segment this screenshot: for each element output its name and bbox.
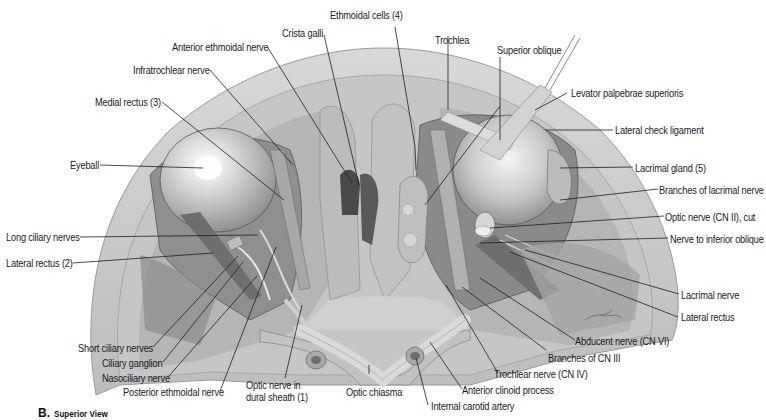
label-ethmoidal-cells: Ethmoidal cells (4)	[330, 9, 403, 21]
label-long-ciliary-nerves: Long ciliary nerves	[6, 231, 80, 243]
label-crista-galli: Crista galli	[282, 27, 323, 39]
label-optic-nerve-cut: Optic nerve (CN II), cut	[665, 211, 755, 223]
label-lacrimal-nerve: Lacrimal nerve	[681, 289, 739, 301]
label-anterior-ethmoidal-nerve: Anterior ethmoidal nerve	[172, 41, 268, 53]
label-optic-nerve-dural-line2: dural sheath (1)	[246, 391, 308, 403]
label-internal-carotid-artery: Internal carotid artery	[431, 400, 514, 412]
label-lateral-rectus-2: Lateral rectus (2)	[6, 257, 73, 269]
label-infratrochlear-nerve: Infratrochlear nerve	[133, 64, 210, 76]
figure-caption: B. Superior View	[38, 403, 118, 420]
label-anterior-clinoid-process: Anterior clinoid process	[462, 384, 554, 396]
label-nerve-to-inferior-oblique: Nerve to inferior oblique	[670, 233, 764, 245]
label-trochlea: Trochlea	[435, 34, 469, 46]
label-optic-nerve-dural-line1: Optic nerve in	[246, 379, 308, 391]
label-levator-palpebrae-superioris: Levator palpebrae superioris	[571, 87, 683, 99]
label-lacrimal-gland: Lacrimal gland (5)	[635, 162, 706, 174]
label-superior-oblique: Superior oblique	[497, 44, 561, 56]
label-lateral-check-ligament: Lateral check ligament	[615, 124, 704, 136]
label-trochlear-nerve: Trochlear nerve (CN IV)	[494, 368, 588, 380]
label-optic-chiasma: Optic chiasma	[346, 386, 402, 398]
label-ciliary-ganglion: Ciliary ganglion	[102, 357, 162, 369]
label-lateral-rectus: Lateral rectus	[681, 311, 735, 323]
label-optic-nerve-dural-sheath: Optic nerve in dural sheath (1)	[246, 379, 308, 403]
label-nasociliary-nerve: Nasociliary nerve	[102, 372, 170, 384]
label-eyeball: Eyeball	[70, 159, 99, 171]
panel-letter: B.	[38, 406, 50, 420]
label-short-ciliary-nerves: Short ciliary nerves	[78, 342, 153, 354]
label-abducent-nerve: Abducent nerve (CN VI)	[575, 335, 669, 347]
label-branches-lacrimal-nerve: Branches of lacrimal nerve	[659, 184, 764, 196]
label-posterior-ethmoidal-nerve: Posterior ethmoidal nerve	[123, 386, 224, 398]
view-title: Superior View	[54, 408, 108, 419]
label-branches-cn-iii: Branches of CN III	[548, 352, 620, 364]
label-medial-rectus: Medial rectus (3)	[95, 96, 161, 108]
